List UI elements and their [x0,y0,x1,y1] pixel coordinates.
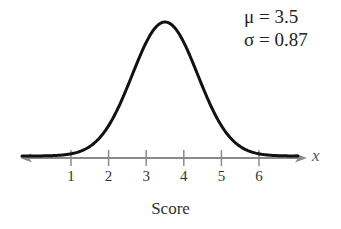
x-tick-label: 5 [211,168,231,185]
x-tick-label: 4 [174,168,194,185]
x-tick-label: 6 [249,168,269,185]
x-tick-label: 2 [99,168,119,185]
mean-annotation: μ = 3.5 [244,6,298,28]
x-axis-label: Score [0,199,341,219]
x-tick-label: 3 [136,168,156,185]
x-tick-label: 1 [61,168,81,185]
std-annotation: σ = 0.87 [244,29,308,51]
x-axis [20,150,307,166]
axis-variable-label: x [312,146,320,166]
